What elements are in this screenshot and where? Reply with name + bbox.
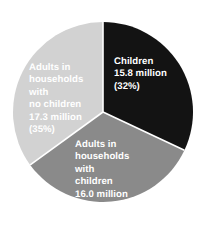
pie-label-adults-no-children: Adults in households with no children 17… xyxy=(29,62,97,136)
pie-label-children: Children 15.8 million (32%) xyxy=(114,56,176,93)
pie-chart-figure: Children 15.8 million (32%) Adults in ho… xyxy=(0,0,209,234)
pie-label-adults-with-children: Adults in households with children 16.0 … xyxy=(75,139,147,213)
